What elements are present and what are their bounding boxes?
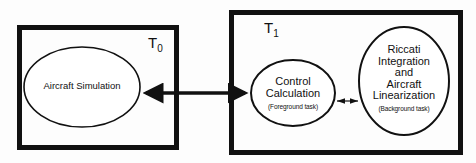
t0-sub: 0 [157,43,163,54]
control-sublabel: (Foreground task) [253,104,333,111]
riccati-line5: Linearization [362,90,446,102]
t0-main: T [148,34,157,51]
aircraft-simulation-label: Aircraft Simulation [30,81,134,91]
t1-main: T [264,19,273,36]
control-line2: Calculation [253,88,333,100]
control-calculation-label: Control Calculation (Foreground task) [253,76,333,111]
riccati-line1: Riccati [362,44,446,56]
box-t1-label: T1 [264,19,279,39]
control-line1: Control [253,76,333,88]
aircraft-simulation-text: Aircraft Simulation [43,80,120,91]
box-t0-label: T0 [148,34,163,54]
riccati-sublabel: (Background task) [362,106,446,113]
riccati-line3: and [362,67,446,79]
t1-sub: 1 [273,28,279,39]
riccati-label: Riccati Integration and Aircraft Lineari… [362,44,446,113]
